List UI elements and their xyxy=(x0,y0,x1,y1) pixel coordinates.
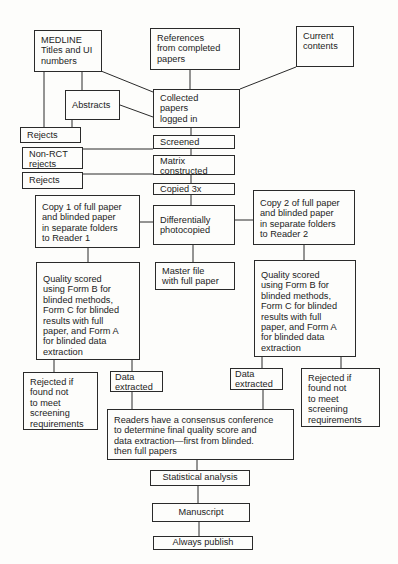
node-abstracts: Abstracts xyxy=(65,90,120,120)
node-rejects-2: Rejects xyxy=(22,172,83,189)
node-medline: MEDLINE Titles and UI numbers xyxy=(34,30,102,72)
node-rejects-1: Rejects xyxy=(20,127,81,143)
node-quality-right: Quality scored using Form B for blinded … xyxy=(254,260,356,357)
node-consensus-conference: Readers have a consensus conference to d… xyxy=(107,409,294,460)
node-quality-left: Quality scored using Form B for blinded … xyxy=(36,262,140,360)
node-collected: Collected papers logged in xyxy=(153,89,240,128)
node-manuscript: Manuscript xyxy=(152,503,250,522)
node-matrix: Matrix constructed xyxy=(153,155,235,175)
node-differentially-photocopied: Differentially photocopied xyxy=(153,205,235,245)
node-copy-1: Copy 1 of full paper and blinded paper i… xyxy=(35,195,140,248)
node-copied-3x: Copied 3x xyxy=(153,183,235,195)
node-statistical-analysis: Statistical analysis xyxy=(150,470,250,486)
node-references: References from completed papers xyxy=(150,28,240,70)
node-non-rct-rejects: Non-RCT rejects xyxy=(22,147,83,169)
node-rejected-right: Rejected if found not to meet screening … xyxy=(301,368,380,427)
node-screened: Screened xyxy=(153,135,235,149)
node-copy-2: Copy 2 of full paper and blinded paper i… xyxy=(253,190,355,245)
node-master-file: Master file with full paper xyxy=(155,262,235,290)
node-always-publish: Always publish xyxy=(153,536,253,550)
node-current-contents: Current contents xyxy=(296,26,354,67)
node-rejected-left: Rejected if found not to meet screening … xyxy=(23,372,98,430)
node-data-extracted-left: Data extracted xyxy=(110,371,163,392)
node-data-extracted-right: Data extracted xyxy=(230,368,283,390)
